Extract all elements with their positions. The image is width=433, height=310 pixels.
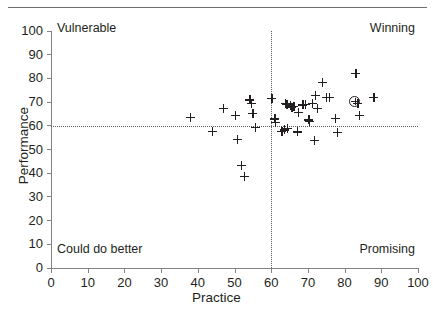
- x-axis-tick: [308, 269, 309, 273]
- scatter-point-marker: [245, 95, 254, 104]
- scatter-point-marker: [351, 69, 360, 78]
- x-axis-tick: [418, 269, 419, 273]
- x-axis-tick-label: 20: [109, 275, 139, 290]
- x-axis-tick: [235, 269, 236, 273]
- scatter-point-marker: [310, 136, 319, 145]
- x-axis-tick-label: 60: [256, 275, 286, 290]
- x-axis-tick-label: 40: [183, 275, 213, 290]
- quadrant-label-could-do-better: Could do better: [57, 242, 142, 256]
- scatter-point-marker: [287, 103, 296, 112]
- scatter-point-marker: [240, 172, 249, 181]
- y-axis-tick: [47, 149, 51, 150]
- scatter-point-marker: [186, 113, 195, 122]
- scatter-point-marker: [305, 117, 314, 126]
- scatter-point-marker: [318, 78, 327, 87]
- quadrant-label-vulnerable: Vulnerable: [57, 21, 116, 35]
- scatter-point-marker: [247, 99, 256, 108]
- x-axis-tick: [198, 269, 199, 273]
- scatter-point-marker: [304, 115, 313, 124]
- scatter-point-marker: [219, 104, 228, 113]
- top-divider-rule: [8, 7, 427, 8]
- y-axis-title: Performance: [16, 76, 31, 216]
- x-axis-tick-label: 0: [36, 275, 66, 290]
- scatter-point-marker: [301, 100, 310, 109]
- y-axis-tick: [47, 125, 51, 126]
- y-axis-tick: [47, 31, 51, 32]
- scatter-point-marker: [289, 102, 298, 111]
- x-axis-tick: [381, 269, 382, 273]
- x-axis-tick-label: 100: [403, 275, 433, 290]
- quadrant-label-winning: Winning: [370, 21, 415, 35]
- x-axis-title: Practice: [0, 290, 433, 305]
- scatter-point-marker: [248, 109, 257, 118]
- y-axis-tick-label: 100: [15, 23, 43, 38]
- x-axis-tick: [345, 269, 346, 273]
- y-axis-tick-label: 10: [15, 236, 43, 251]
- scatter-point-marker: [286, 101, 295, 110]
- x-axis-tick-label: 10: [73, 275, 103, 290]
- x-axis-tick-label: 30: [146, 275, 176, 290]
- scatter-point-marker: [311, 91, 320, 100]
- scatter-point-marker: [308, 99, 317, 108]
- scatter-point-marker: [231, 111, 240, 120]
- y-axis-tick-label: 0: [15, 260, 43, 275]
- scatter-point-marker: [313, 104, 322, 113]
- x-axis-tick-label: 90: [366, 275, 396, 290]
- scatter-point-marker: [294, 108, 303, 117]
- y-axis-tick: [47, 78, 51, 79]
- y-axis-tick: [47, 220, 51, 221]
- y-axis-tick: [47, 102, 51, 103]
- scatter-point-marker: [237, 161, 246, 170]
- x-axis-tick: [271, 269, 272, 273]
- scatter-point-marker: [251, 123, 260, 132]
- y-axis-tick: [47, 196, 51, 197]
- scatter-point-marker: [298, 100, 307, 109]
- x-axis-tick: [124, 269, 125, 273]
- scatter-point-marker: [349, 96, 360, 107]
- quadrant-label-promising: Promising: [359, 242, 415, 256]
- scatter-point-marker: [233, 135, 242, 144]
- y-axis-tick: [47, 244, 51, 245]
- x-axis-tick: [88, 269, 89, 273]
- y-axis-tick-label: 90: [15, 47, 43, 62]
- scatter-point-marker: [293, 127, 302, 136]
- scatter-point-marker: [331, 114, 340, 123]
- x-axis-tick: [161, 269, 162, 273]
- scatter-point-marker: [322, 93, 331, 102]
- scatter-point-marker: [333, 128, 342, 137]
- y-axis-line: [51, 31, 52, 269]
- scatter-point-marker: [353, 99, 362, 108]
- scatter-point-marker: [369, 93, 378, 102]
- vertical-reference-line: [271, 31, 272, 268]
- y-axis-tick: [47, 54, 51, 55]
- scatter-chart-figure: 0102030405060708090100 01020304050607080…: [0, 0, 433, 310]
- scatter-point-marker: [325, 93, 334, 102]
- scatter-point-marker: [208, 127, 217, 136]
- y-axis-tick: [47, 173, 51, 174]
- x-axis-tick-label: 50: [220, 275, 250, 290]
- x-axis-tick-label: 70: [293, 275, 323, 290]
- x-axis-tick-label: 80: [330, 275, 360, 290]
- x-axis-tick: [51, 269, 52, 273]
- scatter-point-marker: [277, 127, 286, 136]
- scatter-point-marker: [355, 111, 364, 120]
- horizontal-reference-line: [51, 126, 418, 127]
- scatter-point-marker: [282, 100, 291, 109]
- scatter-point-marker: [281, 99, 290, 108]
